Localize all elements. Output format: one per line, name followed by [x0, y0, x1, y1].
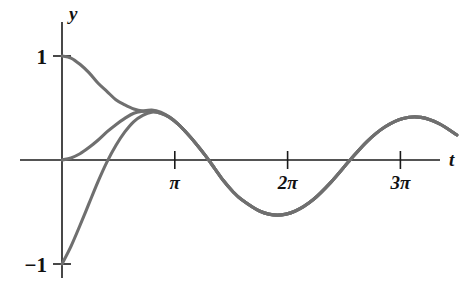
x-tick-label: 2π [277, 172, 299, 193]
y-tick-label: 1 [37, 45, 48, 69]
axis-labels-group: π2π3π1−1yt [25, 3, 455, 277]
x-tick-label: π [170, 172, 181, 193]
chart-figure: π2π3π1−1yt [0, 0, 471, 285]
solution-curve [62, 110, 457, 215]
plot-canvas: π2π3π1−1yt [0, 0, 471, 285]
x-tick-label: 3π [389, 172, 411, 193]
y-axis-label: y [67, 3, 78, 24]
t-axis-label: t [449, 149, 455, 170]
y-tick-label: −1 [25, 253, 47, 277]
